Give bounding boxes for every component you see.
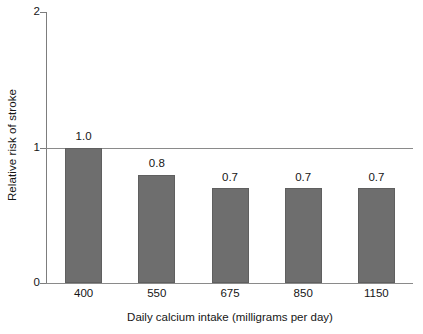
y-axis-title-text: Relative risk of stroke <box>6 89 18 201</box>
x-axis-tick-labels: 4005506758501150 <box>47 288 413 304</box>
y-tick-label-0: 0 <box>26 277 40 289</box>
x-tick-label-550: 550 <box>147 288 166 300</box>
bar-value-label-850: 0.7 <box>295 172 311 184</box>
bar-1150[interactable] <box>358 188 395 283</box>
bar-value-label-675: 0.7 <box>222 172 238 184</box>
bar-850[interactable] <box>285 188 322 283</box>
bar-675[interactable] <box>212 188 249 283</box>
bar-550[interactable] <box>138 175 175 283</box>
x-tick-label-400: 400 <box>74 288 93 300</box>
bar-group: 0.7 <box>358 12 395 283</box>
y-tick-label-2: 2 <box>26 6 40 18</box>
y-axis-tick-labels: 2 1 0 <box>22 0 40 334</box>
bar-value-label-550: 0.8 <box>149 158 165 170</box>
x-axis-title: Daily calcium intake (milligrams per day… <box>47 311 413 323</box>
bar-group: 0.7 <box>212 12 249 283</box>
x-tick-label-850: 850 <box>294 288 313 300</box>
bar-value-label-1150: 0.7 <box>368 172 384 184</box>
y-tick-label-1: 1 <box>26 142 40 154</box>
y-axis-title: Relative risk of stroke <box>0 0 24 290</box>
bar-400[interactable] <box>65 148 102 284</box>
bar-group: 0.8 <box>138 12 175 283</box>
plot-area: 1.00.80.70.70.7 <box>47 12 413 283</box>
bar-chart: Relative risk of stroke 2 1 0 1.00.80.70… <box>0 0 423 334</box>
bar-group: 1.0 <box>65 12 102 283</box>
x-tick-label-1150: 1150 <box>364 288 389 300</box>
x-axis-line <box>46 283 413 284</box>
bar-group: 0.7 <box>285 12 322 283</box>
bar-value-label-400: 1.0 <box>76 131 92 143</box>
x-tick-label-675: 675 <box>220 288 239 300</box>
